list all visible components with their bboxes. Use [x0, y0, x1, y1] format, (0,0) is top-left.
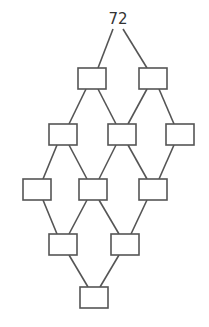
- connector-line: [159, 89, 174, 124]
- empty-answer-box[interactable]: [49, 234, 77, 255]
- connector-line: [123, 29, 147, 68]
- factor-diagram: 72: [0, 0, 209, 327]
- connector-line: [131, 200, 147, 234]
- factor-box-r3b[interactable]: [79, 179, 107, 200]
- empty-answer-box[interactable]: [139, 179, 167, 200]
- connector-line: [128, 89, 147, 124]
- empty-answer-box[interactable]: [78, 68, 106, 89]
- empty-answer-box[interactable]: [166, 124, 194, 145]
- empty-answer-box[interactable]: [139, 68, 167, 89]
- connector-line: [43, 200, 57, 234]
- empty-answer-box[interactable]: [49, 124, 77, 145]
- factor-box-r4a[interactable]: [49, 234, 77, 255]
- factor-box-r2b[interactable]: [108, 124, 136, 145]
- connector-line: [69, 255, 88, 287]
- connector-line: [99, 145, 116, 179]
- factor-box-r5a[interactable]: [80, 287, 108, 308]
- empty-answer-box[interactable]: [108, 124, 136, 145]
- connector-line: [69, 145, 87, 179]
- connector-line: [69, 200, 87, 234]
- empty-answer-box[interactable]: [80, 287, 108, 308]
- root-number-label: 72: [108, 10, 127, 28]
- factor-box-r2c[interactable]: [166, 124, 194, 145]
- factor-box-r4b[interactable]: [111, 234, 139, 255]
- connector-line: [100, 255, 119, 287]
- empty-answer-box[interactable]: [79, 179, 107, 200]
- factor-box-r2a[interactable]: [49, 124, 77, 145]
- factor-box-r3a[interactable]: [23, 179, 51, 200]
- connector-line: [43, 145, 57, 179]
- connector-line: [69, 89, 86, 124]
- connector-line: [128, 145, 147, 179]
- connector-line: [98, 29, 113, 68]
- empty-answer-box[interactable]: [111, 234, 139, 255]
- factor-box-r1b[interactable]: [139, 68, 167, 89]
- factor-box-r1a[interactable]: [78, 68, 106, 89]
- factor-box-r3c[interactable]: [139, 179, 167, 200]
- connector-line: [98, 89, 116, 124]
- empty-answer-box[interactable]: [23, 179, 51, 200]
- connector-line: [99, 200, 119, 234]
- connector-line: [159, 145, 174, 179]
